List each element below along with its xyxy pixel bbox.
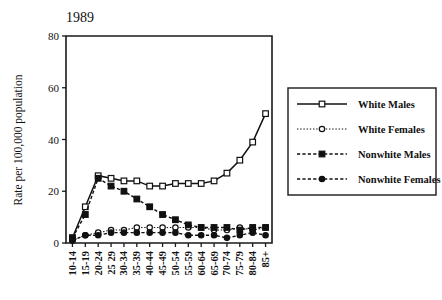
data-point bbox=[250, 230, 255, 235]
series-line bbox=[72, 233, 265, 241]
data-point bbox=[173, 217, 179, 223]
x-tick-label: 25 29 bbox=[106, 251, 117, 275]
data-point bbox=[186, 181, 192, 187]
y-tick-label: 60 bbox=[48, 82, 60, 94]
x-tick-label: 35-39 bbox=[131, 251, 142, 276]
data-point bbox=[95, 176, 101, 182]
data-point bbox=[263, 111, 269, 117]
data-point bbox=[224, 170, 230, 176]
data-point bbox=[198, 233, 203, 238]
data-point bbox=[95, 233, 100, 238]
y-axis-title: Rate per 100,000 population bbox=[12, 74, 25, 205]
data-point bbox=[319, 151, 325, 157]
data-point bbox=[121, 188, 127, 194]
data-point bbox=[211, 225, 217, 231]
y-tick-label: 0 bbox=[54, 237, 60, 249]
chart-title: 1989 bbox=[66, 10, 94, 25]
data-point bbox=[108, 176, 114, 182]
data-point bbox=[160, 212, 166, 218]
legend-box: White MalesWhite FemalesNonwhite MalesNo… bbox=[288, 88, 441, 195]
x-tick-label: 85+ bbox=[260, 251, 271, 268]
data-point bbox=[250, 139, 256, 145]
legend-label: Nonwhite Females bbox=[358, 174, 441, 185]
legend-label: White Males bbox=[358, 99, 415, 110]
data-point bbox=[237, 233, 242, 238]
data-point bbox=[186, 233, 191, 238]
x-tick-label: 80-84 bbox=[247, 250, 258, 275]
data-point bbox=[173, 230, 178, 235]
data-point bbox=[147, 204, 153, 210]
data-point bbox=[121, 230, 126, 235]
x-tick-label: 60-64 bbox=[196, 250, 207, 275]
data-point bbox=[263, 233, 268, 238]
y-tick-label: 20 bbox=[48, 185, 60, 197]
x-tick-label: 40-44 bbox=[144, 250, 155, 275]
data-point bbox=[134, 178, 140, 184]
x-tick-label: 15-19 bbox=[80, 251, 91, 276]
data-point bbox=[198, 181, 204, 187]
data-point bbox=[108, 230, 113, 235]
x-tick-label: 55-59 bbox=[183, 251, 194, 276]
y-tick-label: 80 bbox=[48, 30, 60, 42]
chart-page: 1989 Rate per 100,000 population 0204060… bbox=[0, 0, 442, 300]
data-point bbox=[160, 230, 165, 235]
data-point bbox=[263, 225, 269, 231]
data-point bbox=[224, 235, 229, 240]
data-point bbox=[121, 178, 127, 184]
series-layer bbox=[70, 111, 269, 243]
data-point bbox=[83, 233, 88, 238]
y-axis: 020406080 bbox=[48, 30, 66, 249]
data-point bbox=[198, 225, 204, 231]
x-tick-label: 65-69 bbox=[209, 251, 220, 276]
data-point bbox=[173, 181, 179, 187]
x-tick-label: 45-49 bbox=[157, 251, 168, 276]
data-point bbox=[70, 238, 75, 243]
plot-frame bbox=[66, 36, 272, 243]
data-point bbox=[147, 230, 152, 235]
data-point bbox=[237, 157, 243, 163]
data-point bbox=[211, 233, 216, 238]
x-tick-label: 20-24 bbox=[93, 250, 104, 275]
data-point bbox=[147, 183, 153, 189]
data-point bbox=[319, 126, 324, 131]
x-axis: 10-1415-1920-2425 2930-3435-3940-4445-49… bbox=[67, 243, 271, 276]
data-point bbox=[224, 225, 230, 231]
x-tick-label: 50-54 bbox=[170, 250, 181, 275]
y-tick-label: 40 bbox=[48, 134, 60, 146]
data-point bbox=[134, 230, 139, 235]
data-point bbox=[319, 176, 324, 181]
data-point bbox=[83, 212, 89, 218]
data-point bbox=[186, 222, 192, 228]
data-point bbox=[319, 101, 325, 107]
x-tick-label: 70-74 bbox=[221, 250, 232, 275]
chart-title-group: 1989 bbox=[66, 10, 94, 25]
data-point bbox=[160, 183, 166, 189]
data-point bbox=[211, 178, 217, 184]
data-point bbox=[108, 183, 114, 189]
x-tick-label: 10-14 bbox=[67, 250, 78, 275]
data-point bbox=[134, 196, 140, 202]
legend-label: White Females bbox=[358, 124, 425, 135]
plot-border bbox=[66, 36, 272, 243]
line-chart: 1989 Rate per 100,000 population 0204060… bbox=[0, 0, 442, 300]
legend-label: Nonwhite Males bbox=[358, 149, 431, 160]
y-axis-title-group: Rate per 100,000 population bbox=[12, 74, 25, 205]
x-tick-label: 75-79 bbox=[234, 251, 245, 276]
x-tick-label: 30-34 bbox=[118, 250, 129, 275]
